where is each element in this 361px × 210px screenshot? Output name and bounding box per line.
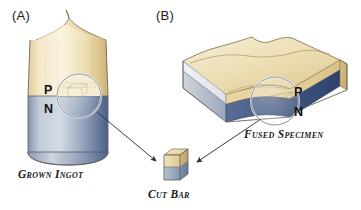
cut-bar-graphic bbox=[164, 149, 188, 180]
cut-bar-front-n bbox=[164, 167, 180, 180]
caption-fused-specimen: Fused Specimen bbox=[244, 128, 323, 140]
panel-b-p-label: P bbox=[294, 86, 302, 99]
panel-a-p-label: P bbox=[44, 84, 52, 97]
cut-bar-front-p bbox=[164, 155, 180, 167]
caption-grown-ingot: Grown Ingot bbox=[18, 168, 83, 180]
caption-cut-bar: Cut Bar bbox=[148, 188, 190, 200]
panel-label-b: (B) bbox=[156, 8, 174, 23]
panel-b-n-label: N bbox=[294, 106, 303, 119]
figure-root: (A) (B) P N P N Grown Ingot Fused Specim… bbox=[0, 0, 361, 210]
ingot-bottom-cap bbox=[28, 152, 108, 165]
panel-a-n-label: N bbox=[44, 103, 53, 116]
slab-right-edge bbox=[340, 60, 347, 90]
panel-b-magnifier bbox=[251, 77, 299, 125]
panel-a-ingot-graphic bbox=[28, 10, 108, 165]
arrow-specimen-to-cutbar bbox=[197, 119, 261, 162]
panel-label-a: (A) bbox=[12, 8, 30, 23]
panel-b-slab-graphic bbox=[183, 37, 347, 125]
